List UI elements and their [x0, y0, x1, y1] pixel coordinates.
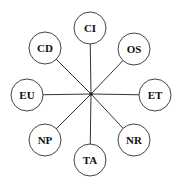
node-label: CD [37, 42, 53, 54]
node-label: ET [148, 89, 163, 101]
node-nr: NR [118, 124, 150, 156]
node-eu: EU [11, 79, 43, 111]
node-et: ET [139, 79, 171, 111]
hub-point [90, 93, 93, 96]
node-np: NP [29, 124, 61, 156]
node-label: NR [126, 134, 143, 146]
hub-spoke-diagram: CIOSETNRTANPEUCD [0, 0, 183, 186]
node-label: EU [19, 89, 34, 101]
node-cd: CD [29, 32, 61, 64]
node-label: NP [38, 134, 53, 146]
node-ci: CI [74, 12, 106, 44]
node-label: TA [83, 154, 98, 166]
node-label: CI [84, 22, 96, 34]
node-label: OS [127, 43, 142, 55]
node-os: OS [118, 33, 150, 65]
node-ta: TA [74, 144, 106, 176]
